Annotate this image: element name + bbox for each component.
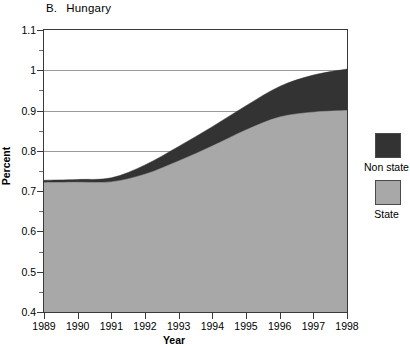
x-tick-label: 1993 [167, 320, 190, 332]
y-tick-label: 0.4 [21, 306, 36, 318]
legend-entry: Non state [366, 133, 410, 173]
x-tick [179, 313, 180, 319]
y-tick-label: 0.9 [21, 105, 36, 117]
legend-swatch [375, 180, 401, 205]
y-tick-label: 0.6 [21, 225, 36, 237]
x-tick-label: 1992 [133, 320, 156, 332]
x-tick-label: 1998 [335, 320, 358, 332]
x-tick [111, 313, 112, 319]
legend-swatch [375, 133, 401, 158]
stacked-area-plot [44, 30, 347, 312]
x-axis-title: Year [0, 334, 348, 346]
x-tick [347, 313, 348, 319]
country-name: Hungary [66, 2, 111, 14]
y-axis-title: Percent [0, 147, 12, 186]
x-tick-label: 1997 [302, 320, 325, 332]
x-tick-label: 1989 [32, 320, 55, 332]
x-tick-label: 1996 [268, 320, 291, 332]
x-tick-label: 1990 [66, 320, 89, 332]
x-tick [44, 313, 45, 319]
chart-title: B.Hungary [46, 2, 111, 14]
legend-label: Non state [363, 161, 410, 173]
panel-label: B. [46, 2, 57, 14]
y-tick-label: 0.7 [21, 185, 36, 197]
x-tick-label: 1994 [201, 320, 224, 332]
x-tick-label: 1991 [100, 320, 123, 332]
x-tick [78, 313, 79, 319]
legend-label: State [363, 208, 410, 220]
y-tick-label: 0.8 [21, 145, 36, 157]
chart-figure: B.Hungary Percent 0.40.50.60.70.80.911.1… [0, 0, 410, 346]
chart-legend: Non stateState [366, 133, 410, 227]
x-tick [145, 313, 146, 319]
x-tick [212, 313, 213, 319]
x-tick-label: 1995 [234, 320, 257, 332]
x-tick [246, 313, 247, 319]
x-tick [313, 313, 314, 319]
x-tick [280, 313, 281, 319]
legend-entry: State [366, 180, 410, 220]
y-tick-label: 1.1 [21, 24, 36, 36]
y-tick-label: 1 [30, 64, 36, 76]
plot-area [43, 29, 348, 313]
y-tick-label: 0.5 [21, 266, 36, 278]
